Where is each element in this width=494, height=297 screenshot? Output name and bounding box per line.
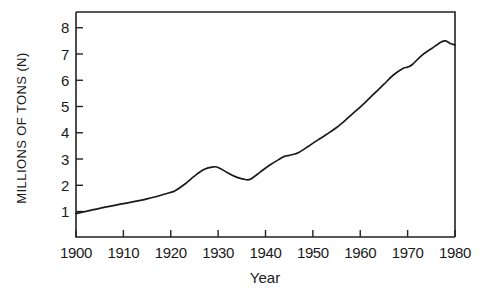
- y-tick-label: 2: [61, 177, 69, 194]
- x-tick-label: 1920: [155, 244, 187, 261]
- y-tick-label: 8: [61, 19, 69, 36]
- line-chart: 12345678 1900191019201930194019501960197…: [0, 0, 494, 297]
- x-tick-label: 1910: [107, 244, 139, 261]
- y-axis-ticks: [76, 28, 83, 212]
- x-tick-label: 1900: [60, 244, 92, 261]
- x-axis-ticks: [76, 230, 455, 237]
- y-tick-label: 7: [61, 46, 69, 63]
- chart-container: 12345678 1900191019201930194019501960197…: [0, 0, 494, 297]
- x-tick-label: 1960: [344, 244, 376, 261]
- y-axis-tick-labels: 12345678: [61, 19, 69, 220]
- x-tick-label: 1940: [250, 244, 282, 261]
- x-tick-label: 1970: [392, 244, 424, 261]
- x-axis-tick-labels: 190019101920193019401950196019701980: [60, 244, 471, 261]
- x-tick-label: 1950: [297, 244, 329, 261]
- y-tick-label: 1: [61, 203, 69, 220]
- x-tick-label: 1930: [202, 244, 234, 261]
- x-axis-title: Year: [250, 269, 280, 286]
- x-tick-label: 1980: [439, 244, 471, 261]
- y-axis-title: MILLIONS OF TONS (N): [14, 52, 29, 203]
- y-tick-label: 4: [61, 124, 69, 141]
- y-tick-label: 5: [61, 98, 69, 115]
- y-tick-label: 3: [61, 151, 69, 168]
- data-line-nitrogen-production: [76, 41, 455, 214]
- data-series-group: [76, 41, 455, 214]
- y-tick-label: 6: [61, 72, 69, 89]
- plot-frame: [76, 12, 455, 237]
